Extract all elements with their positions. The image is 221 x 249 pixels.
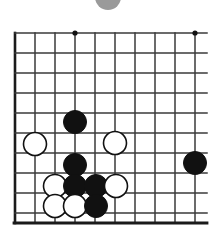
star-point-marker [192, 30, 197, 35]
black-stone-center[interactable] [64, 154, 87, 177]
white-stone-lower-far-right[interactable] [105, 175, 128, 198]
goban-canvas[interactable] [0, 0, 221, 249]
star-point-marker [72, 30, 77, 35]
black-stone-upper-center[interactable] [64, 111, 87, 134]
diagram-background [0, 0, 221, 249]
black-stone-right-side[interactable] [184, 152, 207, 175]
white-stone-left-edge[interactable] [24, 133, 47, 156]
go-board-diagram [0, 0, 221, 249]
white-stone-right-of-black[interactable] [104, 132, 127, 155]
white-stone-bottom-center[interactable] [64, 195, 87, 218]
black-stone-bottom-right[interactable] [85, 195, 108, 218]
